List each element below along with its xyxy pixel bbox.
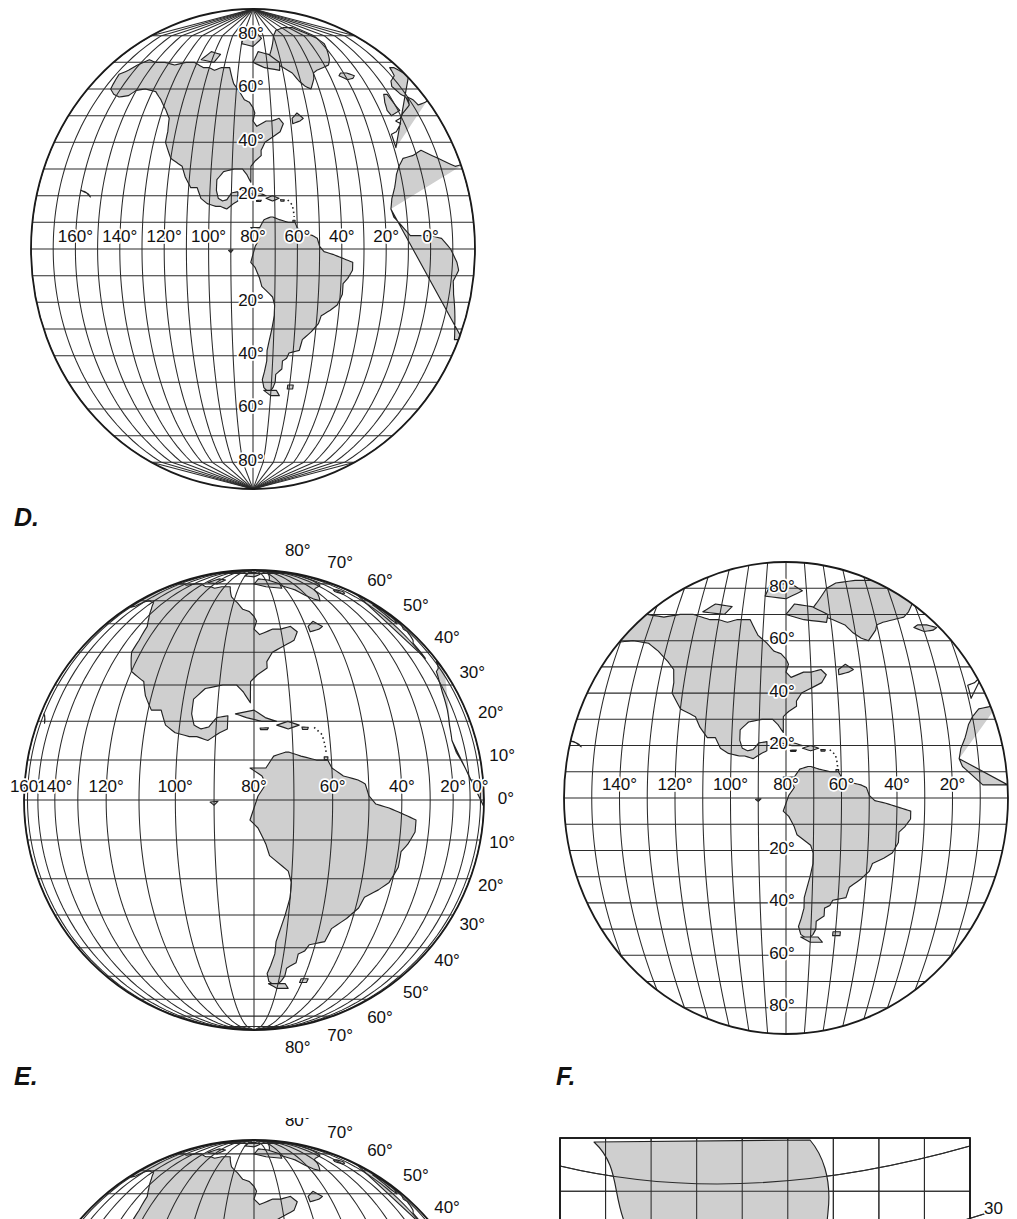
globe-g-graphic: 80°70°60°50°40° [6,1118,516,1219]
longitude-label-60: 60° [829,775,855,794]
landmass-falkland-islands [833,932,841,936]
globe-e-graphic: 160°140°120°100°80°60°40°20°0°80°70°60°5… [6,548,516,1058]
rim-latitude-label-equator: 0° [498,789,514,808]
longitude-label-0: 0° [422,227,438,246]
rim-latitude-label-n-70: 70° [327,1123,353,1142]
graticule [24,573,484,1026]
landmass-hispaniola [266,196,279,201]
longitude-label-0: 0° [472,777,488,796]
latitude-label-n-40: 40° [238,131,264,150]
figure-label-e: E. [14,1062,38,1091]
latitude-label-n-60: 60° [238,77,264,96]
landmass-cuba [235,710,276,721]
landmass-newfoundland [838,664,853,674]
longitude-label-60: 60° [285,227,311,246]
globe-d-graphic: 160°140°120°100°80°60°40°20°0°20°40°60°8… [18,2,498,497]
figure-label-d: D. [14,503,39,532]
landmass-british-isles [968,646,986,667]
edge-label-30: 30 [984,1199,1003,1218]
rim-latitude-label-n-60: 60° [367,1141,393,1160]
longitude-label-120: 120° [147,227,182,246]
landmass-victoria-island [201,52,220,63]
landmass-trinidad [324,757,328,760]
longitude-label-40: 40° [329,227,355,246]
latitude-label-s-80: 80° [238,451,264,470]
landmasses [81,28,465,396]
rim-latitude-label-s-10: 10° [489,833,515,852]
longitude-label-140: 140° [102,227,137,246]
landmass-newfoundland [308,1191,322,1202]
longitude-label-140: 140° [37,777,72,796]
rim-latitude-label-n-40: 40° [434,1198,460,1217]
figure-label-f: F. [556,1062,575,1091]
latitude-label-s-40: 40° [238,344,264,363]
latitude-label-s-80: 80° [769,996,795,1015]
landmass-south-america [594,1140,829,1219]
latitude-label-s-60: 60° [238,397,264,416]
rim-latitude-label-s-40: 40° [434,951,460,970]
landmass-hispaniola [802,746,818,751]
rim-latitude-label-s-50: 50° [403,983,429,1002]
longitude-label-80: 80° [773,775,799,794]
figure-panel-f: 140°120°100°80°60°40°20°20°40°60°80°20°4… [556,550,1016,1050]
latitude-label-n-20: 20° [238,184,264,203]
landmass-puerto-rico [302,727,308,729]
rim-latitude-label-s-60: 60° [367,1008,393,1027]
longitude-label-140: 140° [602,775,637,794]
landmass-puerto-rico [821,749,826,751]
rim-latitude-label-n-80: 80° [285,1118,311,1130]
figure-panel-g: 80°70°60°50°40° [6,1118,516,1219]
landmass-trinidad [293,220,295,222]
landmass-newfoundland [308,621,322,632]
landmass-falkland-islands [287,385,293,389]
antilles-dotted-arc [830,750,838,767]
landmass-newfoundland [292,113,303,124]
latitude-label-n-80: 80° [238,24,264,43]
landmass-falkland-islands [300,979,309,983]
longitude-label-80: 80° [241,777,267,796]
longitude-label-120: 120° [89,777,124,796]
longitude-label-100: 100° [158,777,193,796]
latitude-label-n-40: 40° [769,682,795,701]
latitude-label-s-40: 40° [769,891,795,910]
landmass-greenland [812,580,915,640]
landmass-africa [959,703,1008,785]
antilles-dotted-arc [288,200,294,217]
landmass-iceland [914,625,937,632]
landmass-trinidad [836,770,839,772]
longitude-label-20: 20° [940,775,966,794]
longitude-label-40: 40° [389,777,415,796]
rim-latitude-label-n-60: 60° [367,571,393,590]
rim-latitude-label-n-50: 50° [403,1166,429,1185]
longitude-label-100: 100° [191,227,226,246]
longitude-label-60: 60° [320,777,346,796]
rim-latitude-label-n-40: 40° [434,628,460,647]
figure-panel-d: 160°140°120°100°80°60°40°20°0°20°40°60°8… [18,2,498,497]
latitude-label-s-20: 20° [769,839,795,858]
longitude-label-160: 160° [58,227,93,246]
landmass-jamaica [260,728,268,730]
rim-latitude-label-s-70: 70° [327,1026,353,1045]
grid-map-h-graphic: 30 [552,1128,1017,1219]
latitude-label-n-60: 60° [769,629,795,648]
landmass-tierra-del-fuego [801,937,823,942]
figure-panel-e: 160°140°120°100°80°60°40°20°0°80°70°60°5… [6,548,516,1058]
longitude-label-40: 40° [884,775,910,794]
rim-latitude-label-s-20: 20° [478,876,504,895]
globe-f-graphic: 140°120°100°80°60°40°20°20°40°60°80°20°4… [556,550,1016,1050]
latitude-label-s-60: 60° [769,944,795,963]
longitude-label-80: 80° [240,227,266,246]
landmass-puerto-rico [281,200,285,202]
rim-latitude-label-n-20: 20° [478,703,504,722]
longitude-label-20: 20° [373,227,399,246]
landmass-hispaniola [277,721,299,729]
rim-latitude-label-n-70: 70° [327,553,353,572]
longitude-label-120: 120° [657,775,692,794]
rim-latitude-label-s-80: 80° [285,1038,311,1057]
landmass-victoria-island [703,604,732,614]
rim-latitude-label-s-30: 30° [459,915,485,934]
longitude-label-100: 100° [713,775,748,794]
longitude-label-20: 20° [440,777,466,796]
rim-latitude-label-n-30: 30° [459,663,485,682]
figure-panel-h: 30 [552,1128,1017,1219]
